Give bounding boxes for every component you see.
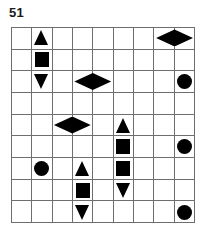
grid-cell[interactable] bbox=[53, 136, 73, 158]
grid-cell[interactable] bbox=[93, 136, 113, 158]
grid-cell[interactable] bbox=[93, 201, 113, 223]
grid-cell[interactable] bbox=[73, 136, 93, 158]
grid-cell[interactable] bbox=[154, 71, 174, 93]
grid-cell[interactable] bbox=[175, 158, 195, 180]
grid-cell[interactable] bbox=[134, 180, 154, 202]
grid-cell[interactable] bbox=[12, 136, 32, 158]
square-shape[interactable] bbox=[116, 139, 130, 154]
triangle-down-shape[interactable] bbox=[34, 74, 48, 89]
grid-cell[interactable] bbox=[53, 28, 73, 50]
grid-cell[interactable] bbox=[93, 50, 113, 72]
square-shape[interactable] bbox=[76, 183, 90, 198]
grid-cell[interactable] bbox=[12, 115, 32, 137]
grid-cell[interactable] bbox=[134, 50, 154, 72]
puzzle-grid-container bbox=[11, 27, 195, 223]
grid-cell[interactable] bbox=[114, 201, 134, 223]
grid-cell[interactable] bbox=[114, 28, 134, 50]
grid-cell[interactable] bbox=[12, 71, 32, 93]
grid-cell[interactable] bbox=[32, 201, 52, 223]
grid-cell[interactable] bbox=[53, 201, 73, 223]
grid-cell[interactable] bbox=[53, 158, 73, 180]
grid-cell[interactable] bbox=[32, 136, 52, 158]
grid-cell[interactable] bbox=[32, 115, 52, 137]
grid-cell[interactable] bbox=[73, 28, 93, 50]
grid-cell[interactable] bbox=[134, 93, 154, 115]
grid-cell[interactable] bbox=[134, 71, 154, 93]
grid-cell[interactable] bbox=[53, 71, 73, 93]
grid-cell[interactable] bbox=[134, 136, 154, 158]
grid-cell[interactable] bbox=[175, 115, 195, 137]
grid-cell[interactable] bbox=[134, 158, 154, 180]
grid-cell[interactable] bbox=[154, 158, 174, 180]
grid-cell[interactable] bbox=[12, 28, 32, 50]
grid-cell[interactable] bbox=[134, 201, 154, 223]
grid-cell[interactable] bbox=[154, 136, 174, 158]
puzzle-number-label: 51 bbox=[9, 6, 24, 20]
grid-cell[interactable] bbox=[53, 50, 73, 72]
grid-cell[interactable] bbox=[73, 50, 93, 72]
grid-cell[interactable] bbox=[154, 93, 174, 115]
grid-cell[interactable] bbox=[175, 50, 195, 72]
triangle-up-shape[interactable] bbox=[116, 118, 130, 133]
triangle-down-shape[interactable] bbox=[75, 205, 89, 220]
grid-cell[interactable] bbox=[93, 180, 113, 202]
grid-cell[interactable] bbox=[53, 93, 73, 115]
grid-cell[interactable] bbox=[93, 158, 113, 180]
grid-cell[interactable] bbox=[93, 115, 113, 137]
grid-cell[interactable] bbox=[154, 115, 174, 137]
square-shape[interactable] bbox=[116, 161, 130, 176]
grid-cell[interactable] bbox=[12, 180, 32, 202]
grid-cell[interactable] bbox=[134, 28, 154, 50]
grid-cell[interactable] bbox=[32, 93, 52, 115]
circle-shape[interactable] bbox=[177, 205, 192, 220]
grid-cell[interactable] bbox=[12, 158, 32, 180]
grid-cell[interactable] bbox=[175, 180, 195, 202]
grid-cell[interactable] bbox=[53, 180, 73, 202]
grid-cell[interactable] bbox=[154, 50, 174, 72]
grid-cell[interactable] bbox=[175, 93, 195, 115]
grid-cell[interactable] bbox=[134, 115, 154, 137]
triangle-down-shape[interactable] bbox=[116, 183, 130, 198]
triangle-up-shape[interactable] bbox=[75, 161, 89, 176]
grid-cell[interactable] bbox=[114, 50, 134, 72]
grid-cell[interactable] bbox=[12, 93, 32, 115]
grid-cell[interactable] bbox=[93, 28, 113, 50]
grid-cell[interactable] bbox=[32, 180, 52, 202]
triangle-up-shape[interactable] bbox=[34, 30, 48, 45]
grid-cell[interactable] bbox=[114, 93, 134, 115]
grid-cell[interactable] bbox=[154, 201, 174, 223]
square-shape[interactable] bbox=[35, 52, 49, 67]
grid-cell[interactable] bbox=[93, 93, 113, 115]
grid-cell[interactable] bbox=[114, 71, 134, 93]
grid-cell[interactable] bbox=[12, 50, 32, 72]
grid-cell[interactable] bbox=[154, 180, 174, 202]
grid-cell[interactable] bbox=[12, 201, 32, 223]
grid-cell[interactable] bbox=[73, 93, 93, 115]
